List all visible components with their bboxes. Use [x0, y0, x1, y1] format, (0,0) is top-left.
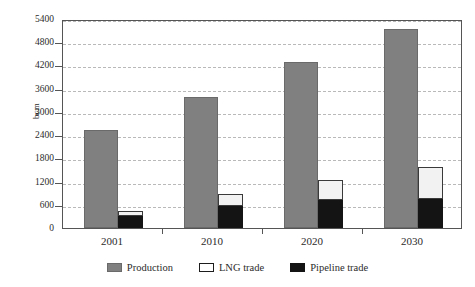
y-axis-tick-mark: [55, 183, 62, 184]
y-axis-tick-label: 0: [8, 223, 54, 233]
x-axis-tick-label: 2020: [277, 235, 347, 247]
y-axis-tick-mark: [55, 206, 62, 207]
y-axis-tick-label: 3000: [8, 107, 54, 117]
legend-item-pipeline-trade: Pipeline trade: [290, 262, 368, 273]
plot-area: [62, 20, 462, 229]
bars-layer: [63, 21, 461, 228]
bar-segment-pipeline-trade: [118, 216, 143, 228]
bar-trade-stack: [118, 211, 143, 228]
y-axis-tick-mark: [55, 159, 62, 160]
y-axis-tick-mark: [55, 90, 62, 91]
y-axis-tick-mark: [55, 66, 62, 67]
x-axis-tick-mark: [162, 229, 163, 234]
bar-segment-lng-trade: [218, 194, 243, 207]
y-axis-tick-label: 1200: [8, 177, 54, 187]
legend-label-production: Production: [127, 262, 173, 273]
legend-item-production: Production: [107, 262, 173, 273]
x-axis-tick-label: 2001: [77, 235, 147, 247]
legend-label-pipeline-trade: Pipeline trade: [310, 262, 368, 273]
bar-production: [384, 29, 418, 228]
bar-segment-lng-trade: [418, 167, 443, 199]
bar-production: [184, 97, 218, 228]
bar-trade-stack: [318, 180, 343, 228]
bar-segment-pipeline-trade: [218, 206, 243, 228]
y-axis-tick-label: 4800: [8, 37, 54, 47]
bar-segment-pipeline-trade: [318, 200, 343, 228]
bar-group: [63, 21, 163, 228]
bar-group: [263, 21, 363, 228]
bar-group: [163, 21, 263, 228]
bar-trade-stack: [218, 194, 243, 228]
pipeline-swatch-icon: [290, 263, 305, 272]
legend-label-lng-trade: LNG trade: [219, 262, 264, 273]
y-axis-tick-mark: [55, 136, 62, 137]
y-axis-tick-label: 2400: [8, 130, 54, 140]
chart-legend: Production LNG trade Pipeline trade: [0, 262, 475, 273]
bar-production: [284, 62, 318, 228]
bar-chart: bcm 060012001800240030003600420048005400…: [0, 0, 475, 287]
y-axis-tick-label: 3600: [8, 84, 54, 94]
y-axis-tick-label: 600: [8, 200, 54, 210]
y-axis-tick-mark: [55, 43, 62, 44]
bar-trade-stack: [418, 167, 443, 228]
y-axis-tick-label: 5400: [8, 14, 54, 24]
bar-segment-pipeline-trade: [418, 199, 443, 228]
lng-swatch-icon: [199, 263, 214, 272]
x-axis-tick-label: 2030: [377, 235, 447, 247]
production-swatch-icon: [107, 263, 122, 272]
bar-group: [363, 21, 463, 228]
legend-item-lng-trade: LNG trade: [199, 262, 264, 273]
y-axis-tick-label: 1800: [8, 153, 54, 163]
y-axis-tick-label: 4200: [8, 60, 54, 70]
x-axis-tick-mark: [262, 229, 263, 234]
x-axis-tick-mark: [362, 229, 363, 234]
bar-segment-lng-trade: [318, 180, 343, 201]
bar-production: [84, 130, 118, 228]
x-axis-tick-label: 2010: [177, 235, 247, 247]
y-axis-tick-mark: [55, 113, 62, 114]
